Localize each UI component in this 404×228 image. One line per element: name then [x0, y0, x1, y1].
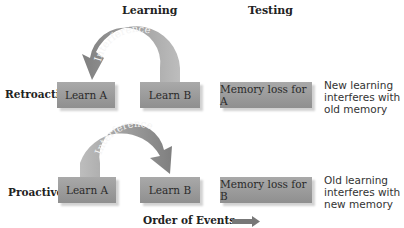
retroactive-arrow-icon: Interference: [82, 23, 180, 82]
proactive-arrow-icon: Interference: [80, 118, 172, 177]
retro-learn-b-box: Learn B: [140, 82, 200, 108]
pro-learn-a-box: Learn A: [58, 177, 116, 203]
pro-result-box: Memory loss for B: [220, 177, 312, 203]
retro-description: New learning interferes with old memory: [324, 79, 400, 115]
svg-text:Interference: Interference: [92, 23, 152, 63]
pro-learn-b-box: Learn B: [140, 177, 200, 203]
pro-description: Old learning interferes with new memory: [324, 174, 400, 210]
retro-learn-a-box: Learn A: [57, 82, 115, 108]
proactive-label: Proactive: [8, 186, 63, 198]
order-of-events-label: Order of Events: [143, 214, 235, 226]
retro-result-box: Memory loss for A: [220, 82, 312, 108]
